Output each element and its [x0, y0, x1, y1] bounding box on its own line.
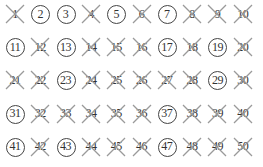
number-label: 41: [10, 139, 21, 154]
cross-out-icon: [131, 69, 153, 91]
number-label: 5: [113, 7, 119, 22]
cross-out-icon: [181, 69, 203, 91]
cross-out-icon: [131, 103, 153, 125]
number-label: 2: [38, 7, 44, 22]
crossed-number-cell: 9: [206, 3, 228, 25]
cross-out-icon: [105, 36, 127, 58]
cross-out-icon: [29, 103, 51, 125]
cross-out-icon: [80, 3, 102, 25]
cross-out-icon: [232, 136, 254, 158]
crossed-number-cell: 4: [80, 3, 102, 25]
crossed-number-cell: 39: [206, 103, 228, 125]
crossed-number-cell: 12: [29, 36, 51, 58]
number-label: 47: [161, 139, 172, 154]
number-label: 11: [10, 40, 21, 55]
crossed-number-cell: 32: [29, 103, 51, 125]
crossed-number-cell: 38: [181, 103, 203, 125]
crossed-number-cell: 35: [105, 103, 127, 125]
cross-out-icon: [80, 36, 102, 58]
crossed-number-cell: 46: [131, 136, 153, 158]
cross-out-icon: [4, 69, 26, 91]
crossed-number-cell: 10: [232, 3, 254, 25]
cross-out-icon: [232, 69, 254, 91]
prime-number-cell: 11: [4, 36, 26, 58]
cross-out-icon: [232, 103, 254, 125]
number-label: 3: [63, 7, 69, 22]
cross-out-icon: [232, 3, 254, 25]
crossed-number-cell: 36: [131, 103, 153, 125]
crossed-number-cell: 30: [232, 69, 254, 91]
prime-number-cell: 29: [206, 69, 228, 91]
cross-out-icon: [181, 36, 203, 58]
crossed-number-cell: 48: [181, 136, 203, 158]
number-label: 43: [60, 139, 71, 154]
crossed-number-cell: 50: [232, 136, 254, 158]
prime-number-cell: 23: [55, 69, 77, 91]
crossed-number-cell: 34: [80, 103, 102, 125]
cross-out-icon: [105, 69, 127, 91]
crossed-number-cell: 6: [131, 3, 153, 25]
crossed-number-cell: 24: [80, 69, 102, 91]
number-label: 37: [161, 106, 172, 121]
cross-out-icon: [105, 103, 127, 125]
cross-out-icon: [181, 3, 203, 25]
crossed-number-cell: 8: [181, 3, 203, 25]
crossed-number-cell: 25: [105, 69, 127, 91]
cross-out-icon: [131, 136, 153, 158]
cross-out-icon: [206, 3, 228, 25]
cross-out-icon: [29, 69, 51, 91]
crossed-number-cell: 44: [80, 136, 102, 158]
crossed-number-cell: 20: [232, 36, 254, 58]
number-label: 17: [161, 40, 172, 55]
cross-out-icon: [156, 69, 178, 91]
prime-number-cell: 41: [4, 136, 26, 158]
prime-number-cell: 43: [55, 136, 77, 158]
cross-out-icon: [4, 3, 26, 25]
prime-number-cell: 37: [156, 103, 178, 125]
crossed-number-cell: 27: [156, 69, 178, 91]
cross-out-icon: [80, 136, 102, 158]
prime-number-cell: 5: [105, 3, 127, 25]
crossed-number-cell: 26: [131, 69, 153, 91]
prime-number-cell: 31: [4, 103, 26, 125]
cross-out-icon: [29, 136, 51, 158]
number-grid: 1234567891011121314151617181920212223242…: [0, 0, 263, 167]
cross-out-icon: [206, 136, 228, 158]
crossed-number-cell: 16: [131, 36, 153, 58]
cross-out-icon: [80, 69, 102, 91]
crossed-number-cell: 49: [206, 136, 228, 158]
prime-number-cell: 3: [55, 3, 77, 25]
prime-number-cell: 47: [156, 136, 178, 158]
cross-out-icon: [29, 36, 51, 58]
number-label: 7: [164, 7, 170, 22]
crossed-number-cell: 28: [181, 69, 203, 91]
prime-number-cell: 19: [206, 36, 228, 58]
crossed-number-cell: 21: [4, 69, 26, 91]
prime-number-cell: 7: [156, 3, 178, 25]
number-label: 23: [60, 73, 71, 88]
crossed-number-cell: 33: [55, 103, 77, 125]
number-label: 29: [212, 73, 223, 88]
crossed-number-cell: 40: [232, 103, 254, 125]
crossed-number-cell: 22: [29, 69, 51, 91]
cross-out-icon: [181, 136, 203, 158]
cross-out-icon: [131, 3, 153, 25]
number-label: 31: [10, 106, 21, 121]
cross-out-icon: [131, 36, 153, 58]
number-label: 19: [212, 40, 223, 55]
cross-out-icon: [105, 136, 127, 158]
cross-out-icon: [181, 103, 203, 125]
cross-out-icon: [80, 103, 102, 125]
cross-out-icon: [206, 103, 228, 125]
prime-number-cell: 17: [156, 36, 178, 58]
crossed-number-cell: 1: [4, 3, 26, 25]
crossed-number-cell: 45: [105, 136, 127, 158]
number-label: 13: [60, 40, 71, 55]
crossed-number-cell: 42: [29, 136, 51, 158]
crossed-number-cell: 15: [105, 36, 127, 58]
cross-out-icon: [232, 36, 254, 58]
prime-number-cell: 13: [55, 36, 77, 58]
crossed-number-cell: 18: [181, 36, 203, 58]
prime-number-cell: 2: [29, 3, 51, 25]
crossed-number-cell: 14: [80, 36, 102, 58]
